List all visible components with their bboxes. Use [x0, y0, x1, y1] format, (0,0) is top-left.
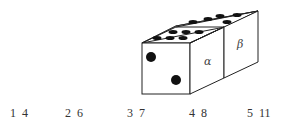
alpha-label: α [204, 55, 212, 68]
dice-diagram: α β [0, 0, 282, 100]
option-1: 1 4 [10, 106, 28, 121]
pip [146, 52, 156, 62]
front-face [142, 43, 190, 94]
option-2: 2 6 [65, 106, 83, 121]
option-3: 3 7 [127, 106, 145, 121]
pip [171, 75, 181, 85]
beta-label: β [236, 38, 243, 51]
option-4: 4 8 [189, 106, 207, 121]
answer-options: 1 4 2 6 3 7 4 8 5 11 [0, 106, 282, 126]
option-5: 5 11 [247, 106, 271, 121]
